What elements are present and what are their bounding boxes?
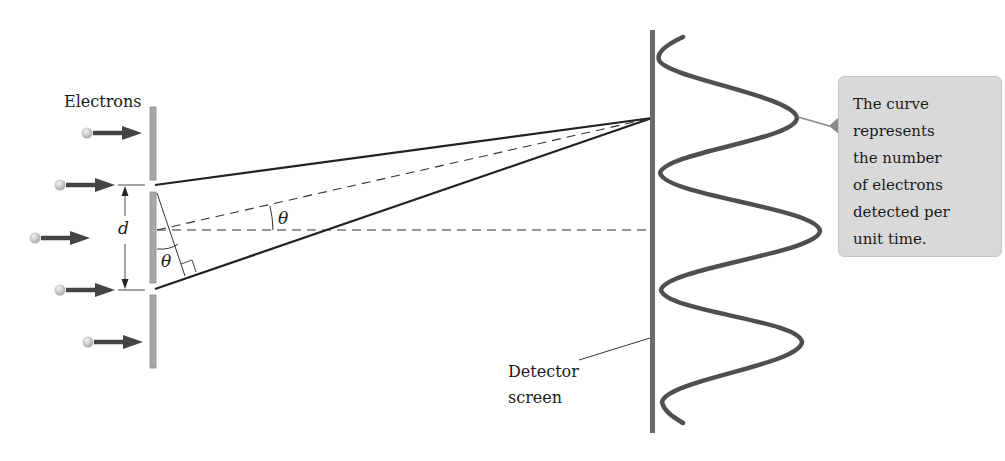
callout-line: the number xyxy=(853,145,991,172)
arrow-icon xyxy=(122,126,142,140)
ray-lower xyxy=(155,118,652,289)
callout-line: of electrons xyxy=(853,172,991,199)
detector-label-line1: Detector xyxy=(508,359,579,385)
barrier-bottom xyxy=(150,295,156,368)
electrons-label: Electrons xyxy=(64,92,141,111)
electron-icon xyxy=(55,285,66,296)
angle-label-lower: θ xyxy=(161,251,171,271)
electron-1 xyxy=(82,126,143,140)
detector-leader-line xyxy=(579,338,650,360)
electron-icon xyxy=(82,128,93,139)
electron-4 xyxy=(55,283,116,297)
interference-curve xyxy=(659,37,820,423)
double-slit-diagram: Electrons d θ θ Detector screen The curv… xyxy=(0,0,1005,461)
electron-icon xyxy=(55,180,66,191)
callout-line: detected per xyxy=(853,199,991,226)
arrow-up-icon xyxy=(122,186,129,196)
callout-line: represents xyxy=(853,118,991,145)
arrow-icon xyxy=(95,178,115,192)
electron-5 xyxy=(83,335,144,349)
arrow-icon xyxy=(95,283,115,297)
callout-connector xyxy=(798,117,833,127)
electron-icon xyxy=(30,233,41,244)
barrier xyxy=(150,107,156,368)
electron-3 xyxy=(30,231,91,245)
angle-label-upper: θ xyxy=(278,208,288,228)
barrier-top xyxy=(150,107,156,180)
callout-line: The curve xyxy=(853,91,991,118)
curve-explanation-callout: The curve represents the number of elect… xyxy=(838,76,1002,257)
ray-upper xyxy=(155,118,652,185)
barrier-middle xyxy=(150,192,156,283)
detector-label-line2: screen xyxy=(508,385,579,411)
angle-arc-upper xyxy=(270,206,273,230)
rays xyxy=(155,118,652,289)
detector-screen xyxy=(650,30,655,433)
slit-separation-label: d xyxy=(118,218,129,238)
callout-line: unit time. xyxy=(853,226,991,253)
electron-icon xyxy=(83,337,94,348)
arrow-down-icon xyxy=(122,279,129,289)
arrow-icon xyxy=(123,335,143,349)
arrow-icon xyxy=(70,231,90,245)
electron-2 xyxy=(55,178,116,192)
detector-screen-label: Detector screen xyxy=(508,359,579,411)
